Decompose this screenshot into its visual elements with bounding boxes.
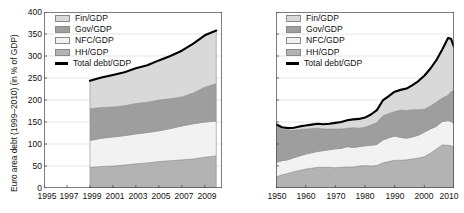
legend-item-nfc: NFC/GDP bbox=[55, 35, 131, 46]
legend-swatch-fin-icon bbox=[55, 15, 70, 22]
legend-item-fin: Fin/GDP bbox=[286, 13, 362, 24]
x-tick-label: 2005 bbox=[152, 192, 171, 201]
legend-swatch-total-line-icon bbox=[55, 62, 68, 64]
legend-swatch-total-line-icon bbox=[286, 62, 299, 64]
y-tick-label: 250 bbox=[14, 74, 42, 83]
y-tick-label: 400 bbox=[14, 8, 42, 17]
legend-label-total: Total debt/GDP bbox=[304, 58, 362, 69]
x-tick-label: 1990 bbox=[386, 192, 405, 201]
legend-label-nfc: NFC/GDP bbox=[306, 35, 345, 46]
x-tick-label: 2009 bbox=[198, 192, 217, 201]
y-tick-label: 100 bbox=[14, 140, 42, 149]
legend-swatch-nfc-icon bbox=[55, 37, 70, 44]
x-tick-label: 1995 bbox=[38, 192, 57, 201]
x-tick-label: 2007 bbox=[175, 192, 194, 201]
legend-item-hh: HH/GDP bbox=[286, 47, 362, 58]
legend-swatch-gov-icon bbox=[55, 26, 70, 33]
legend-label-nfc: NFC/GDP bbox=[75, 35, 114, 46]
legend-item-gov: Gov/GDP bbox=[55, 24, 131, 35]
x-tick-label: 1999 bbox=[83, 192, 102, 201]
legend-swatch-nfc-icon bbox=[286, 37, 301, 44]
legend-label-fin: Fin/GDP bbox=[306, 13, 339, 24]
right-chart-legend: Fin/GDP Gov/GDP NFC/GDP HH/GDP Total deb… bbox=[286, 13, 362, 69]
chart-panel-united-states: US debt (1950–2010) (in % of GDP) 0 50 1… bbox=[232, 0, 464, 213]
legend-item-total: Total debt/GDP bbox=[286, 58, 362, 69]
legend-item-gov: Gov/GDP bbox=[286, 24, 362, 35]
x-tick-label: 2000 bbox=[415, 192, 434, 201]
legend-swatch-fin-icon bbox=[286, 15, 301, 22]
y-tick-label: 150 bbox=[14, 118, 42, 127]
legend-label-gov: Gov/GDP bbox=[75, 24, 112, 35]
x-tick-label: 2001 bbox=[106, 192, 125, 201]
y-tick-label: 300 bbox=[14, 52, 42, 61]
legend-swatch-hh-icon bbox=[286, 49, 301, 56]
legend-label-gov: Gov/GDP bbox=[306, 24, 343, 35]
legend-label-hh: HH/GDP bbox=[75, 47, 108, 58]
legend-swatch-hh-icon bbox=[55, 49, 70, 56]
legend-label-hh: HH/GDP bbox=[306, 47, 339, 58]
legend-item-hh: HH/GDP bbox=[55, 47, 131, 58]
legend-label-fin: Fin/GDP bbox=[75, 13, 108, 24]
x-tick-label: 1997 bbox=[60, 192, 79, 201]
x-tick-label: 1980 bbox=[356, 192, 375, 201]
left-chart-legend: Fin/GDP Gov/GDP NFC/GDP HH/GDP Total deb… bbox=[55, 13, 131, 69]
debt-comparison-figure: Euro area debt (1999–2010) (in % of GDP)… bbox=[0, 0, 464, 213]
x-tick-label: 1970 bbox=[327, 192, 346, 201]
y-tick-label: 50 bbox=[14, 162, 42, 171]
legend-swatch-gov-icon bbox=[286, 26, 301, 33]
y-tick-label: 350 bbox=[14, 30, 42, 39]
left-chart-y-tick-labels: 0 50 100 150 200 250 300 350 400 bbox=[14, 0, 42, 213]
chart-panel-euro-area: Euro area debt (1999–2010) (in % of GDP)… bbox=[0, 0, 232, 213]
x-tick-label: 2003 bbox=[129, 192, 148, 201]
legend-item-total: Total debt/GDP bbox=[55, 58, 131, 69]
legend-item-fin: Fin/GDP bbox=[55, 13, 131, 24]
x-tick-label: 1950 bbox=[268, 192, 287, 201]
legend-item-nfc: NFC/GDP bbox=[286, 35, 362, 46]
x-tick-label: 1960 bbox=[297, 192, 316, 201]
y-tick-label: 200 bbox=[14, 96, 42, 105]
x-tick-label: 2010 bbox=[440, 192, 459, 201]
legend-label-total: Total debt/GDP bbox=[73, 58, 131, 69]
